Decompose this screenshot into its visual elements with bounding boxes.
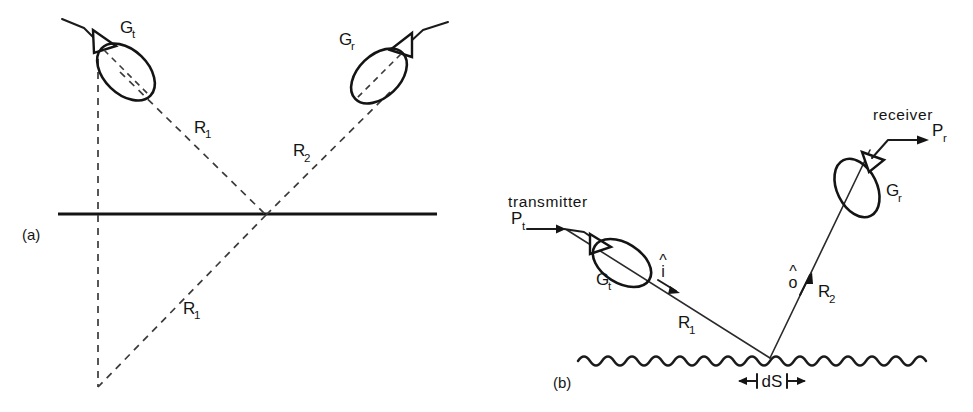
panel-a-r1-image-subscript: 1 [194, 309, 200, 321]
receiver-horn-icon [390, 33, 412, 57]
transmitter-feed-line [62, 19, 97, 41]
panel-b-scattered-ray-r2 [770, 150, 870, 358]
panel-b-caption: (b) [553, 374, 571, 391]
i-hat-caret-icon: ^ [659, 252, 667, 269]
panel-b-receiver-horn-icon [862, 152, 884, 172]
panel-b: P t transmitter G t i ^ R 1 o ^ R 2 [508, 106, 947, 391]
image-ray-r1-dashed [98, 215, 266, 387]
panel-a-transmitter-gain-subscript: t [132, 28, 136, 40]
panel-b-transmitter-gain-subscript: t [608, 280, 612, 292]
rough-surface-wavy-line [578, 357, 926, 366]
panel-a-ray-labels: R 1 R 2 R 1 [183, 118, 310, 321]
transmitter-word-label: transmitter [508, 193, 588, 210]
bistatic-scattering-figure: G t G r R 1 R 2 R 1 (a) [0, 0, 973, 412]
panel-a: G t G r R 1 R 2 R 1 (a) [22, 18, 448, 387]
power-transmitted-label: P [511, 209, 522, 228]
scattered-ray-r2-dashed [266, 92, 390, 215]
incident-unit-vector-group: i ^ R 1 [658, 252, 695, 336]
surface-element-dimension: dS [738, 372, 806, 391]
power-received-label: P [932, 121, 943, 140]
panel-a-receiver-gain-subscript: r [351, 40, 355, 52]
panel-b-r1-subscript: 1 [689, 324, 695, 336]
panel-a-r1-subscript: 1 [205, 128, 211, 140]
panel-b-receiver-antenna: P r receiver G r [825, 106, 947, 225]
panel-a-r2-subscript: 2 [304, 152, 310, 164]
panel-b-r2-subscript: 2 [829, 293, 835, 305]
panel-b-receiver-feed-line [872, 140, 919, 158]
power-received-arrow-head [917, 136, 929, 145]
power-received-subscript: r [943, 132, 947, 144]
panel-b-transmitter-antenna: P t transmitter G t [508, 193, 660, 297]
surface-element-label: dS [762, 372, 783, 391]
receiver-feed-line [410, 22, 448, 42]
o-hat-arrow-head [805, 272, 813, 284]
i-hat-arrow-head [668, 286, 680, 294]
figure-container: G t G r R 1 R 2 R 1 (a) [0, 0, 973, 412]
panel-b-receiver-gain-subscript: r [898, 192, 902, 204]
ds-left-arrow-head [738, 377, 747, 385]
panel-a-transmitter-antenna: G t [62, 18, 166, 111]
ds-right-arrow-head [797, 377, 806, 385]
incident-ray-r1-dashed [120, 72, 266, 215]
panel-a-receiver-antenna: G r [339, 22, 448, 114]
receiver-word-label: receiver [873, 106, 933, 123]
o-hat-caret-icon: ^ [789, 263, 797, 280]
power-transmitted-subscript: t [522, 220, 526, 232]
panel-a-caption: (a) [22, 226, 40, 243]
